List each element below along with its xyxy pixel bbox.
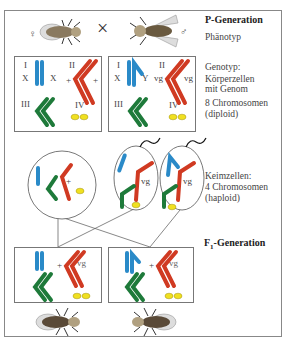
f1-female-cell: + vg — [14, 247, 102, 303]
f1-male-fly-icon — [126, 306, 178, 338]
egg-allele: + — [66, 176, 71, 186]
f1-male-cell: + vg — [108, 247, 194, 303]
f1-male-chromosomes — [109, 248, 195, 304]
sperm2-allele: vg — [183, 176, 192, 186]
sperm1-allele: vg — [141, 176, 150, 186]
f1-female-chromosomes — [15, 248, 103, 304]
sperm-cell-2 — [160, 146, 204, 210]
f1-female-fly-icon — [34, 306, 86, 338]
